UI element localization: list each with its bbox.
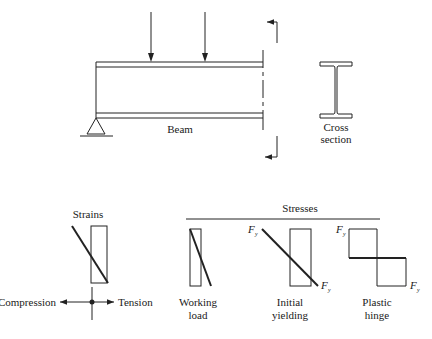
stresses-title: Stresses [282, 202, 317, 214]
i-beam-cross-section-icon [320, 62, 352, 118]
fy-bottom-label: F [320, 279, 328, 291]
initial-yielding-label-line2: yielding [272, 309, 309, 321]
fy-bottom-sub: y [327, 287, 331, 293]
stress-plastic-hinge: F y F y Plastic hinge [335, 223, 420, 321]
strain-profile-box [91, 226, 107, 283]
strain-diagram: Strains Compression Tension [0, 208, 153, 320]
stress-diagrams: Stresses Working load F y F y Initial yi… [179, 202, 420, 321]
strains-title: Strains [73, 208, 104, 220]
working-load-label-line1: Working [179, 296, 218, 308]
cross-section-label-line2: section [320, 133, 352, 145]
stress-working-load: Working load [179, 229, 218, 321]
fy-top-label: F [247, 223, 255, 235]
plastic-hinge-label-line2: hinge [365, 309, 390, 321]
fy-bottom-sub: y [416, 287, 420, 293]
section-cut-marker [263, 22, 277, 157]
strain-line [72, 226, 108, 283]
fy-bottom-label: F [409, 279, 417, 291]
beam: Beam [80, 12, 263, 136]
cross-section-label-line1: Cross [323, 121, 348, 133]
fy-top-sub: y [254, 231, 258, 237]
working-load-label-line2: load [189, 309, 208, 321]
stress-initial-yielding: F y F y Initial yielding [247, 223, 331, 321]
load-arrow-icon [148, 12, 154, 62]
initial-yielding-label-line1: Initial [277, 296, 303, 308]
tension-label: Tension [118, 296, 153, 308]
beam-label: Beam [167, 123, 193, 135]
beam-stress-diagram: Beam Cross section Strains Compression T… [0, 0, 432, 339]
fy-top-sub: y [342, 231, 346, 237]
fy-top-label: F [335, 223, 343, 235]
plastic-hinge-label-line1: Plastic [362, 296, 391, 308]
origin-dot-icon [90, 300, 95, 305]
load-arrow-icon [202, 12, 208, 62]
pin-support-icon [80, 118, 113, 136]
compression-label: Compression [0, 296, 56, 308]
